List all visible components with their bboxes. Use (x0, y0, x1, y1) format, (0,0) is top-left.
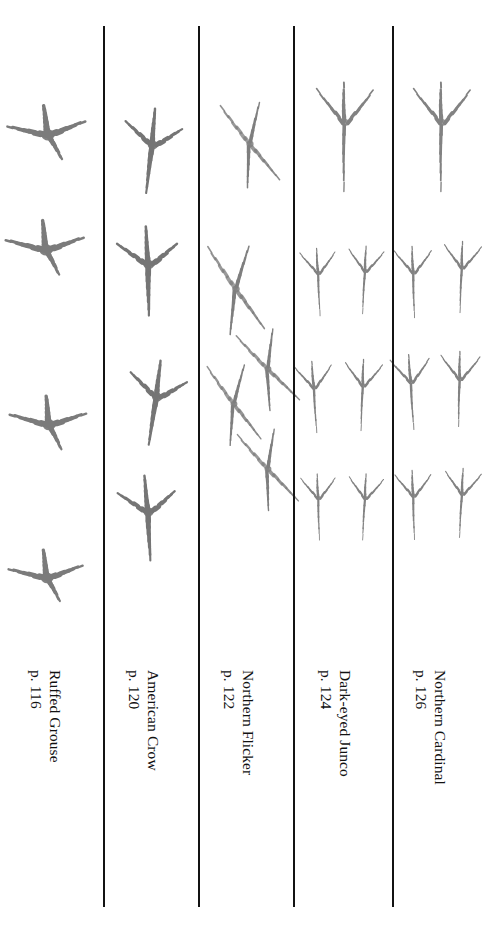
track-mark-dark-eyed-junco-6 (298, 470, 341, 544)
column-divider-1 (103, 26, 105, 907)
track-mark-american-crow-3 (114, 351, 199, 456)
column-divider-4 (392, 26, 394, 907)
bird-track-plate: Ruffed Grousep. 116American Crowp. 120No… (0, 0, 484, 932)
column-divider-2 (198, 26, 200, 907)
track-group-american-crow (103, 26, 198, 656)
species-name-northern-flicker: Northern Flicker (238, 670, 257, 775)
species-column-dark-eyed-junco: Dark-eyed Juncop. 124 (293, 0, 392, 932)
track-group-ruffed-grouse (0, 26, 103, 656)
track-mark-northern-flicker-1 (215, 96, 285, 192)
page-reference-northern-cardinal: p. 126 (411, 670, 430, 785)
page-reference-dark-eyed-junco: p. 124 (317, 670, 336, 777)
species-name-dark-eyed-junco: Dark-eyed Junco (335, 670, 354, 777)
species-column-ruffed-grouse: Ruffed Grousep. 116 (0, 0, 103, 932)
species-name-ruffed-grouse: Ruffed Grouse (45, 670, 64, 763)
caption-area-northern-flicker: Northern Flickerp. 122 (198, 662, 293, 907)
page-reference-northern-flicker: p. 122 (219, 670, 238, 775)
track-mark-dark-eyed-junco-4 (290, 357, 339, 438)
species-caption-ruffed-grouse: Ruffed Grousep. 116 (26, 670, 64, 763)
track-mark-northern-cardinal-5 (436, 348, 483, 431)
species-column-northern-flicker: Northern Flickerp. 122 (198, 0, 293, 932)
track-mark-northern-cardinal-2 (391, 242, 437, 321)
track-mark-dark-eyed-junco-3 (342, 242, 387, 318)
track-mark-northern-cardinal-6 (392, 467, 437, 544)
track-mark-northern-cardinal-1 (409, 78, 476, 197)
track-mark-dark-eyed-junco-5 (340, 355, 386, 434)
track-mark-american-crow-2 (109, 220, 188, 323)
track-mark-american-crow-4 (110, 469, 189, 570)
column-divider-3 (293, 26, 295, 907)
track-group-dark-eyed-junco (293, 26, 392, 656)
page-reference-american-crow: p. 120 (124, 670, 143, 771)
caption-area-dark-eyed-junco: Dark-eyed Juncop. 124 (293, 662, 392, 907)
species-caption-northern-cardinal: Northern Cardinalp. 126 (411, 670, 449, 785)
track-group-northern-flicker (198, 26, 293, 656)
track-group-northern-cardinal (392, 26, 484, 656)
track-mark-ruffed-grouse-4 (4, 542, 91, 612)
track-mark-ruffed-grouse-3 (5, 389, 93, 458)
species-column-american-crow: American Crowp. 120 (103, 0, 198, 932)
species-caption-american-crow: American Crowp. 120 (124, 670, 162, 771)
page-reference-ruffed-grouse: p. 116 (26, 670, 45, 763)
track-mark-northern-cardinal-7 (439, 464, 484, 542)
track-mark-northern-cardinal-3 (439, 237, 484, 316)
track-mark-dark-eyed-junco-2 (296, 244, 341, 320)
caption-area-american-crow: American Crowp. 120 (103, 662, 198, 907)
track-mark-dark-eyed-junco-1 (312, 78, 379, 197)
species-name-american-crow: American Crow (143, 670, 162, 771)
species-caption-northern-flicker: Northern Flickerp. 122 (219, 670, 257, 775)
track-mark-ruffed-grouse-2 (1, 213, 91, 285)
caption-area-northern-cardinal: Northern Cardinalp. 126 (392, 662, 484, 907)
track-mark-dark-eyed-junco-7 (343, 470, 387, 544)
track-mark-ruffed-grouse-1 (2, 97, 94, 172)
species-name-northern-cardinal: Northern Cardinal (430, 670, 449, 785)
species-column-northern-cardinal: Northern Cardinalp. 126 (392, 0, 484, 932)
track-mark-american-crow-1 (111, 100, 193, 203)
caption-area-ruffed-grouse: Ruffed Grousep. 116 (0, 662, 103, 907)
species-caption-dark-eyed-junco: Dark-eyed Juncop. 124 (317, 670, 355, 777)
